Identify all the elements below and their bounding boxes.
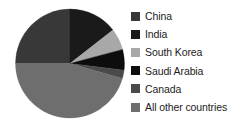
legend-label-india: India [145,25,167,43]
pie-chart-figure: ChinaIndiaSouth KoreaSaudi ArabiaCanadaA… [0,0,242,127]
pie-chart-plot-area: ChinaIndiaSouth KoreaSaudi ArabiaCanadaA… [15,8,125,119]
legend-item-india[interactable]: India [131,25,242,43]
legend-item-south-korea[interactable]: South Korea [131,43,242,61]
legend-item-all-other-countries[interactable]: All other countries [131,98,242,116]
chart-legend: ChinaIndiaSouth KoreaSaudi ArabiaCanadaA… [131,7,242,120]
legend-swatch-south-korea [131,48,140,57]
legend-item-china[interactable]: China [131,7,242,25]
legend-swatch-all-other-countries [131,103,140,112]
legend-swatch-saudi-arabia [131,66,140,75]
pie-slice-china[interactable]: China [16,9,71,64]
legend-label-canada: Canada [145,80,181,98]
pie-chart-svg: ChinaIndiaSouth KoreaSaudi ArabiaCanadaA… [15,8,125,119]
legend-item-saudi-arabia[interactable]: Saudi Arabia [131,62,242,80]
legend-swatch-india [131,30,140,39]
legend-label-south-korea: South Korea [145,43,202,61]
legend-swatch-china [131,12,140,21]
legend-label-saudi-arabia: Saudi Arabia [145,62,203,80]
legend-item-canada[interactable]: Canada [131,80,242,98]
legend-label-china: China [145,7,172,25]
legend-swatch-canada [131,84,140,93]
pie-slice-group: ChinaIndiaSouth KoreaSaudi ArabiaCanadaA… [16,9,125,118]
legend-label-all-other-countries: All other countries [145,98,227,116]
